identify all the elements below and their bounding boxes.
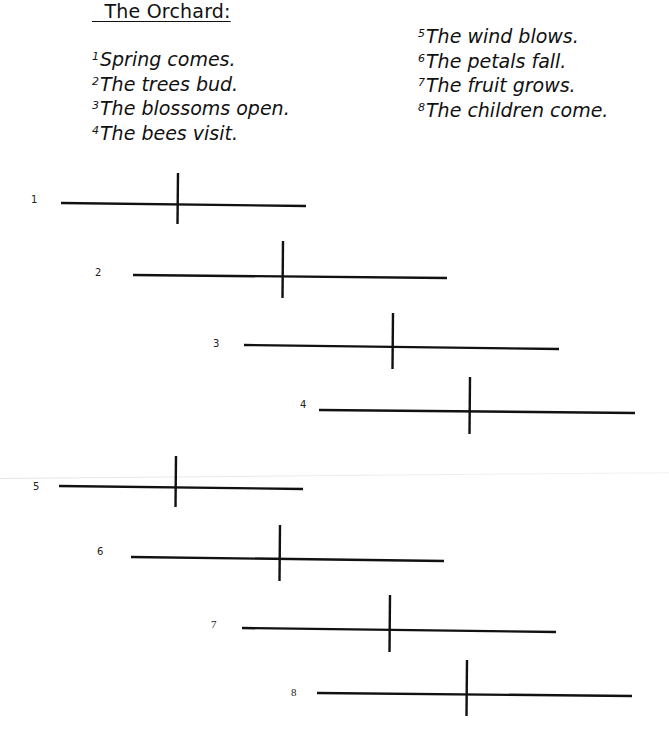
sentence-diagram-4 — [319, 377, 635, 434]
diagram-baseline — [319, 410, 635, 413]
diagram-subject-predicate-divider — [176, 456, 177, 507]
diagram-baseline — [131, 557, 444, 561]
diagram-baseline — [59, 486, 303, 489]
diagram-subject-predicate-divider — [467, 660, 468, 716]
sentence-diagram-3 — [244, 313, 559, 369]
diagram-subject-predicate-divider — [390, 595, 391, 652]
sentence-diagram-8 — [317, 660, 632, 716]
diagram-subject-predicate-divider — [393, 313, 394, 369]
sentence-diagram-5 — [59, 456, 303, 507]
diagram-subject-predicate-divider — [280, 525, 281, 581]
sentence-diagram-7 — [242, 595, 556, 652]
sentence-diagram-6 — [131, 525, 444, 581]
diagram-baseline — [242, 628, 556, 632]
sentence-diagram-2 — [133, 241, 447, 298]
sentence-diagram-canvas — [0, 0, 669, 749]
diagram-baseline — [244, 345, 559, 349]
sentence-diagram-1 — [61, 173, 306, 224]
diagram-subject-predicate-divider — [283, 241, 284, 298]
diagram-baseline — [61, 203, 306, 206]
diagram-baseline — [133, 275, 447, 278]
diagram-subject-predicate-divider — [470, 377, 471, 434]
diagram-baseline — [317, 693, 632, 696]
diagram-subject-predicate-divider — [178, 173, 179, 224]
